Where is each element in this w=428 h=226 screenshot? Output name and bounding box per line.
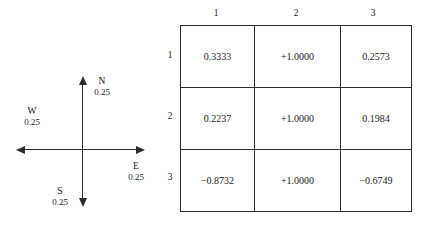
matrix-cell-r2c2: +1.0000: [255, 88, 341, 150]
matrix-cell-r1c3: 0.2573: [341, 26, 412, 88]
matrix-row-header-3: 3: [164, 172, 176, 182]
arrow-west-icon: [16, 146, 25, 154]
compass-label-south-value: 0.25: [46, 197, 74, 208]
matrix-cell-r2c3: 0.1984: [341, 88, 412, 150]
compass-label-north-value: 0.25: [88, 87, 116, 98]
figure-root: N 0.25 E 0.25 S 0.25 W 0.25 1 2 3 1 2 3 …: [0, 0, 428, 226]
table-row: 0.2237 +1.0000 0.1984: [181, 88, 412, 150]
arrow-south-icon: [79, 198, 87, 207]
compass-label-south: S 0.25: [46, 186, 74, 208]
matrix-column-header-1: 1: [206, 8, 226, 18]
compass-label-south-name: S: [46, 186, 74, 197]
matrix-column-header-2: 2: [286, 8, 306, 18]
compass-label-east-value: 0.25: [122, 172, 150, 183]
matrix-table: 0.3333 +1.0000 0.2573 0.2237 +1.0000 0.1…: [180, 25, 412, 212]
arrow-east-icon: [136, 146, 145, 154]
compass-label-west-value: 0.25: [18, 117, 46, 128]
matrix-cell-r1c1: 0.3333: [181, 26, 255, 88]
compass-label-west: W 0.25: [18, 106, 46, 128]
table-row: 0.3333 +1.0000 0.2573: [181, 26, 412, 88]
matrix-panel: 1 2 3 1 2 3 0.3333 +1.0000 0.2573 0.2237…: [160, 6, 420, 218]
matrix-column-header-3: 3: [363, 8, 383, 18]
compass-label-north: N 0.25: [88, 76, 116, 98]
matrix-cell-r3c3: −0.6749: [341, 150, 412, 212]
matrix-cell-r3c1: −0.8732: [181, 150, 255, 212]
compass-vertical-axis: [82, 82, 83, 204]
matrix-cell-r3c2: +1.0000: [255, 150, 341, 212]
compass-label-east: E 0.25: [122, 161, 150, 183]
compass-label-west-name: W: [18, 106, 46, 117]
matrix-cell-r2c1: 0.2237: [181, 88, 255, 150]
compass-label-north-name: N: [88, 76, 116, 87]
compass-diagram: N 0.25 E 0.25 S 0.25 W 0.25: [0, 0, 180, 226]
compass-label-east-name: E: [122, 161, 150, 172]
table-row: −0.8732 +1.0000 −0.6749: [181, 150, 412, 212]
arrow-north-icon: [79, 76, 87, 85]
matrix-row-header-1: 1: [164, 50, 176, 60]
matrix-cell-r1c2: +1.0000: [255, 26, 341, 88]
compass-horizontal-axis: [24, 149, 142, 150]
matrix-row-header-2: 2: [164, 111, 176, 121]
